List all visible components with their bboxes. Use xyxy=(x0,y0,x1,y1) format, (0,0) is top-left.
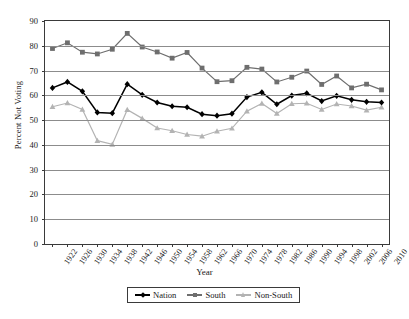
x-tick-mark xyxy=(142,244,143,247)
y-tick-label: 70 xyxy=(16,67,38,76)
y-tick-label: 40 xyxy=(16,141,38,150)
x-tick-mark xyxy=(367,244,368,247)
x-tick-label: 1934 xyxy=(108,248,124,266)
data-point-marker xyxy=(110,47,115,52)
data-point-marker xyxy=(319,98,324,104)
plot-area xyxy=(44,20,390,245)
data-point-marker xyxy=(184,104,189,110)
series-line xyxy=(52,82,381,116)
x-tick-mark xyxy=(157,244,158,247)
data-point-marker xyxy=(259,101,265,106)
series-line xyxy=(52,103,381,144)
data-point-marker xyxy=(65,40,70,45)
data-point-marker xyxy=(50,85,55,91)
x-tick-label: 1994 xyxy=(333,248,349,266)
x-tick-label: 2006 xyxy=(378,248,394,266)
y-tick-mark xyxy=(42,219,45,220)
x-tick-label: 1954 xyxy=(183,248,199,266)
y-tick-label: 80 xyxy=(16,42,38,51)
data-point-marker xyxy=(154,125,160,130)
x-tick-label: 1978 xyxy=(273,248,289,266)
x-tick-mark xyxy=(352,244,353,247)
x-tick-mark xyxy=(262,244,263,247)
legend-label: Nation xyxy=(153,290,176,300)
data-point-marker xyxy=(65,79,70,85)
series-south xyxy=(50,31,384,92)
data-point-marker xyxy=(319,82,324,87)
y-tick-mark xyxy=(42,170,45,171)
data-point-marker xyxy=(245,65,250,70)
x-tick-label: 1950 xyxy=(168,248,184,266)
x-tick-label: 1926 xyxy=(78,248,94,266)
x-tick-mark xyxy=(247,244,248,247)
data-point-marker xyxy=(214,113,219,119)
x-tick-label: 2002 xyxy=(363,248,379,266)
x-tick-mark xyxy=(112,244,113,247)
voter-turnout-chart: Percent Not Voting 0102030405060708090 1… xyxy=(0,0,409,319)
data-point-marker xyxy=(349,97,354,103)
data-point-marker xyxy=(65,100,71,105)
gridline xyxy=(45,170,389,171)
x-tick-mark xyxy=(67,244,68,247)
x-tick-mark xyxy=(82,244,83,247)
x-tick-mark xyxy=(127,244,128,247)
data-point-marker xyxy=(169,103,174,109)
y-tick-mark xyxy=(42,145,45,146)
data-point-marker xyxy=(215,79,220,84)
data-point-marker xyxy=(80,50,85,55)
data-point-marker xyxy=(50,46,55,51)
data-point-marker xyxy=(274,111,280,116)
y-tick-mark xyxy=(42,244,45,245)
data-point-marker xyxy=(364,82,369,87)
gridline xyxy=(45,145,389,146)
gridline xyxy=(45,71,389,72)
y-tick-label: 50 xyxy=(16,116,38,125)
legend-marker-diamond-icon xyxy=(135,294,150,295)
legend-item-non-south[interactable]: Non-South xyxy=(236,290,292,300)
x-tick-label: 1962 xyxy=(213,248,229,266)
data-point-marker xyxy=(154,99,159,105)
x-axis-title: Year xyxy=(0,267,409,277)
x-tick-mark xyxy=(97,244,98,247)
x-tick-mark xyxy=(217,244,218,247)
data-point-marker xyxy=(364,99,369,105)
data-point-marker xyxy=(379,87,384,92)
data-point-marker xyxy=(349,86,354,91)
x-tick-mark xyxy=(307,244,308,247)
data-point-marker xyxy=(125,31,130,36)
y-tick-label: 60 xyxy=(16,91,38,100)
legend-label: South xyxy=(205,290,225,300)
data-point-marker xyxy=(155,50,160,55)
y-tick-label: 20 xyxy=(16,190,38,199)
gridline xyxy=(45,95,389,96)
data-point-marker xyxy=(274,80,279,85)
data-point-marker xyxy=(379,99,384,105)
legend-item-south[interactable]: South xyxy=(187,290,225,300)
x-tick-label: 1986 xyxy=(303,248,319,266)
data-point-marker xyxy=(230,78,235,83)
x-tick-label: 1930 xyxy=(93,248,109,266)
y-tick-label: 30 xyxy=(16,166,38,175)
legend-marker-square-icon xyxy=(187,294,202,295)
data-point-marker xyxy=(289,75,294,80)
x-tick-mark xyxy=(52,244,53,247)
x-tick-mark xyxy=(382,244,383,247)
legend-item-nation[interactable]: Nation xyxy=(135,290,176,300)
x-tick-mark xyxy=(232,244,233,247)
x-tick-label: 1938 xyxy=(123,248,139,266)
y-tick-mark xyxy=(42,120,45,121)
x-tick-mark xyxy=(337,244,338,247)
x-tick-label: 1946 xyxy=(153,248,169,266)
data-point-marker xyxy=(170,56,175,61)
series-non-south xyxy=(50,100,385,147)
series-lines xyxy=(45,21,389,244)
series-nation xyxy=(50,79,384,119)
x-tick-label: 1966 xyxy=(228,248,244,266)
y-tick-mark xyxy=(42,21,45,22)
x-tick-label: 1942 xyxy=(138,248,154,266)
x-tick-mark xyxy=(277,244,278,247)
y-tick-mark xyxy=(42,46,45,47)
x-tick-mark xyxy=(187,244,188,247)
y-tick-mark xyxy=(42,194,45,195)
y-tick-label: 0 xyxy=(16,240,38,249)
